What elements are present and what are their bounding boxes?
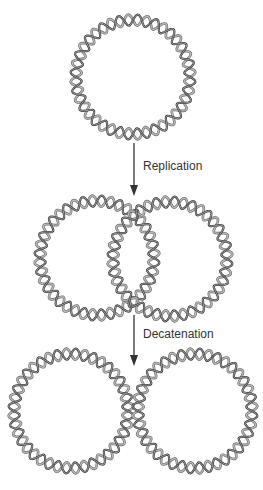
down-arrow-icon — [130, 143, 138, 196]
dna-strand-light — [133, 349, 258, 474]
dna-strand-outline — [71, 15, 196, 140]
dna-strand-light — [71, 15, 196, 140]
diagram-canvas: Replication Decatenation — [0, 0, 263, 490]
down-arrow-icon — [130, 315, 138, 366]
dna-strand-dark — [9, 349, 134, 474]
dna-decatenation-diagram — [0, 0, 263, 490]
arrows-layer — [130, 143, 138, 366]
separated-daughter-circles — [9, 349, 258, 474]
dna-double-helix-circle — [133, 349, 258, 474]
parental-circle — [71, 15, 196, 140]
dna-strand-outline — [133, 349, 258, 474]
catenated-daughter-circles — [35, 196, 233, 322]
dna-circles-layer — [9, 15, 258, 474]
decatenation-label: Decatenation — [143, 327, 214, 341]
dna-double-helix-circle — [71, 15, 196, 140]
dna-strand-highlight — [71, 15, 196, 140]
dna-strand-light — [9, 349, 134, 474]
dna-strand-highlight — [133, 349, 258, 474]
dna-strand-highlight — [9, 349, 134, 474]
dna-strand-dark — [71, 15, 196, 140]
dna-strand-outline — [9, 349, 134, 474]
dna-double-helix-circle — [9, 349, 134, 474]
dna-strand-dark — [133, 349, 258, 474]
replication-label: Replication — [143, 159, 202, 173]
